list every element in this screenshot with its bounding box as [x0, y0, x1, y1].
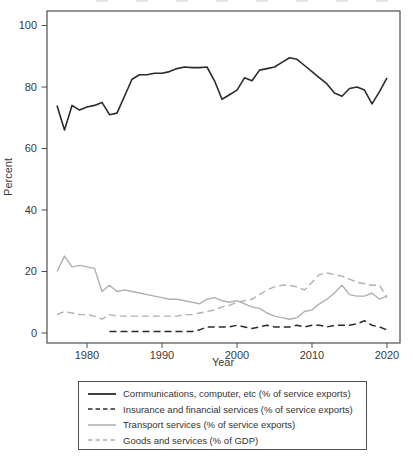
legend-item-communications: Communications, computer, etc (% of serv…: [86, 386, 366, 402]
legend-sample-insurance-line: [86, 404, 118, 414]
legend-label-insurance: Insurance and financial services (% of s…: [123, 404, 353, 415]
y-tick-label: 60: [25, 142, 37, 154]
series-line-insurance: [110, 321, 388, 332]
x-tick-label: 2010: [300, 349, 324, 361]
legend-item-transport: Transport services (% of service exports…: [86, 417, 366, 433]
figure: 020406080100 19801990200020102020 Percen…: [0, 0, 413, 463]
legend-sample-transport-line: [86, 420, 118, 430]
y-tick-label: 20: [25, 265, 37, 277]
x-axis-ticks: 19801990200020102020: [75, 343, 399, 361]
plot-frame: [47, 11, 400, 343]
legend-item-goods: Goods and services (% of GDP): [86, 433, 366, 449]
legend: Communications, computer, etc (% of serv…: [78, 381, 367, 450]
y-tick-label: 100: [19, 19, 37, 31]
legend-item-insurance: Insurance and financial services (% of s…: [86, 402, 366, 418]
y-axis-label: Percent: [2, 158, 14, 196]
y-tick-label: 80: [25, 81, 37, 93]
legend-sample-communications-line: [86, 389, 118, 399]
legend-sample-goods-line: [86, 435, 118, 445]
x-tick-label: 1990: [150, 349, 174, 361]
series-line-goods: [57, 273, 387, 319]
series-line-communications: [57, 58, 387, 130]
legend-label-goods: Goods and services (% of GDP): [123, 435, 258, 446]
x-axis-label: Year: [212, 356, 235, 368]
x-tick-label: 1980: [75, 349, 99, 361]
line-chart: 020406080100 19801990200020102020 Percen…: [0, 0, 413, 376]
series-lines: [57, 58, 387, 332]
series-line-transport: [57, 256, 387, 319]
y-axis-ticks: 020406080100: [19, 19, 47, 339]
y-tick-label: 0: [31, 327, 37, 339]
legend-label-communications: Communications, computer, etc (% of serv…: [123, 388, 351, 399]
legend-label-transport: Transport services (% of service exports…: [123, 419, 295, 430]
y-tick-label: 40: [25, 204, 37, 216]
x-tick-label: 2020: [375, 349, 399, 361]
